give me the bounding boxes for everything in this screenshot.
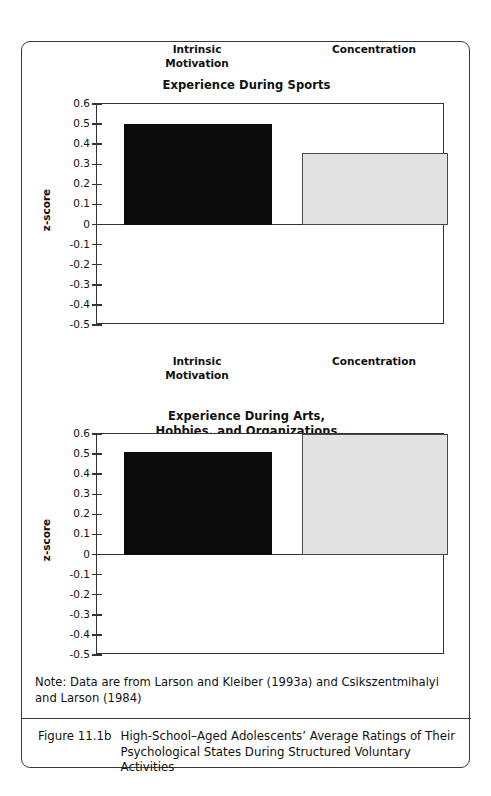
chart-title: Experience During Sports <box>22 78 471 93</box>
y-axis-tick <box>92 514 102 515</box>
y-axis-tick <box>92 554 102 555</box>
x-axis-tick-label: IntrinsicMotivation <box>103 42 291 70</box>
chart-panel-arts-hobbies-organizations: Experience During Arts, Hobbies, and Org… <box>22 354 471 666</box>
y-axis-tick-label: 0.2 <box>56 177 90 189</box>
y-axis-tick-label: -0.5 <box>56 318 90 330</box>
y-axis-tick-label: 0.6 <box>56 97 90 109</box>
x-axis-tick-label-line: Concentration <box>281 354 467 368</box>
caption-text: High-School–Aged Adolescents’ Average Ra… <box>121 729 457 776</box>
y-axis-tick <box>92 264 102 265</box>
y-axis-tick-label: 0.3 <box>56 157 90 169</box>
y-axis-label: z-score <box>40 510 52 570</box>
bar-concentration <box>302 153 448 224</box>
y-axis-tick <box>92 284 102 285</box>
plot-area <box>96 433 444 654</box>
figure-frame: Experience During Sports z-score 0.60.50… <box>21 41 470 768</box>
y-axis-tick-labels: 0.60.50.40.30.20.10-0.1-0.2-0.3-0.4-0.5 <box>56 433 90 654</box>
y-axis-tick <box>92 103 102 104</box>
x-axis-tick-label-line: Intrinsic <box>103 354 291 368</box>
bar-concentration <box>302 434 448 555</box>
bar-intrinsic-motivation <box>124 452 272 554</box>
y-axis-tick <box>92 654 102 655</box>
y-axis-label: z-score <box>40 180 52 240</box>
figure-note: Note: Data are from Larson and Kleiber (… <box>22 666 471 719</box>
y-axis-tick <box>92 453 102 454</box>
y-axis-tick-label: 0.3 <box>56 487 90 499</box>
y-axis-tick-label: 0.2 <box>56 507 90 519</box>
y-axis-tick <box>92 324 102 325</box>
y-axis-tick-label: -0.3 <box>56 278 90 290</box>
y-axis-tick-label: 0 <box>56 218 90 230</box>
x-axis-tick-label-line: Concentration <box>281 42 467 56</box>
y-axis-tick-label: 0.1 <box>56 197 90 209</box>
x-axis-tick-label: Concentration <box>281 354 467 368</box>
y-axis-tick-label: -0.1 <box>56 238 90 250</box>
y-axis-tick-label: 0.6 <box>56 427 90 439</box>
y-axis-tick <box>92 184 102 185</box>
y-axis-tick-label: 0.1 <box>56 527 90 539</box>
x-axis-tick-label: IntrinsicMotivation <box>103 354 291 382</box>
chart-title-line: Experience During Sports <box>22 78 471 93</box>
bar-intrinsic-motivation <box>124 124 272 224</box>
y-axis-tick-label: 0.4 <box>56 467 90 479</box>
y-axis-tick <box>92 634 102 635</box>
y-axis-tick-label: 0.4 <box>56 137 90 149</box>
caption-number: Figure 11.1b <box>38 729 121 745</box>
note-text: Note: Data are from Larson and Kleiber (… <box>35 675 458 706</box>
y-axis-tick <box>92 304 102 305</box>
x-axis-tick-label-line: Motivation <box>103 56 291 70</box>
x-axis-tick-label: Concentration <box>281 42 467 56</box>
chart-panel-sports: Experience During Sports z-score 0.60.50… <box>22 42 471 352</box>
y-axis-tick-label: -0.4 <box>56 298 90 310</box>
y-axis-tick <box>92 123 102 124</box>
y-axis-tick <box>92 433 102 434</box>
y-axis-tick <box>92 494 102 495</box>
y-axis-tick <box>92 164 102 165</box>
y-axis-tick <box>92 534 102 535</box>
x-axis-tick-label-line: Motivation <box>103 368 291 382</box>
y-axis-tick-label: 0 <box>56 548 90 560</box>
plot-area <box>96 103 444 324</box>
y-axis-tick <box>92 574 102 575</box>
y-axis-tick <box>92 244 102 245</box>
y-axis-tick-label: 0.5 <box>56 117 90 129</box>
y-axis-tick-labels: 0.60.50.40.30.20.10-0.1-0.2-0.3-0.4-0.5 <box>56 103 90 324</box>
figure-caption: Figure 11.1b High-School–Aged Adolescent… <box>22 720 471 767</box>
y-axis-tick-label: 0.5 <box>56 447 90 459</box>
x-axis-tick-label-line: Intrinsic <box>103 42 291 56</box>
y-axis-tick <box>92 204 102 205</box>
y-axis-tick-label: -0.2 <box>56 258 90 270</box>
y-axis-tick <box>92 143 102 144</box>
y-axis-tick <box>92 224 102 225</box>
chart-title-line: Experience During Arts, <box>22 409 471 424</box>
y-axis-tick-label: -0.3 <box>56 608 90 620</box>
y-axis-tick <box>92 473 102 474</box>
y-axis-tick-label: -0.5 <box>56 648 90 660</box>
y-axis-tick-label: -0.2 <box>56 588 90 600</box>
y-axis-tick-label: -0.1 <box>56 568 90 580</box>
y-axis-tick-label: -0.4 <box>56 628 90 640</box>
y-axis-tick <box>92 594 102 595</box>
y-axis-tick <box>92 614 102 615</box>
